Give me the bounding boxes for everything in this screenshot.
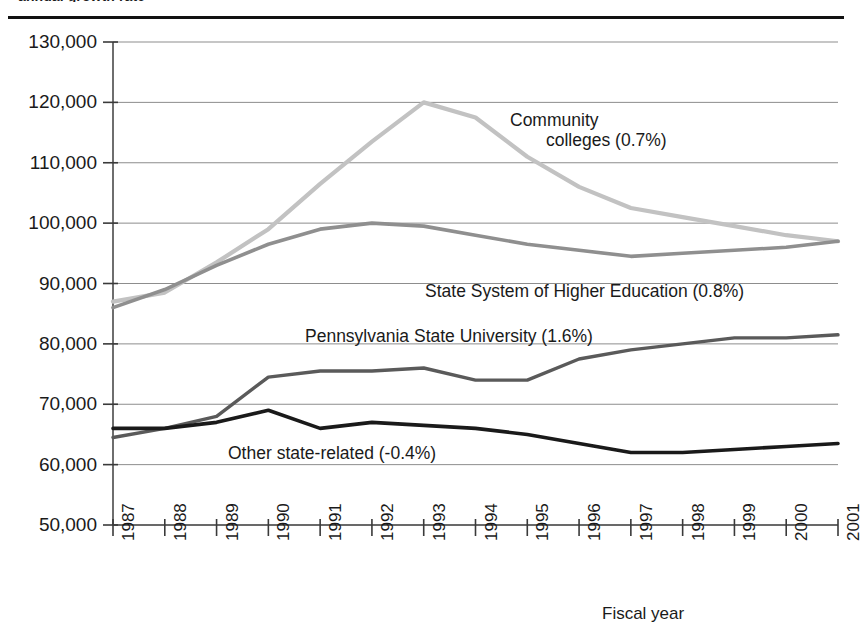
x-tick-label: 1990 (275, 503, 292, 541)
y-tick-label: 100,000 (28, 213, 97, 232)
y-tick-label: 110,000 (30, 153, 97, 172)
y-tick-label: 90,000 (39, 274, 97, 293)
x-tick-label: 1987 (120, 503, 137, 541)
series-label-state-system: State System of Higher Education (0.8%) (425, 281, 744, 301)
y-tick-label: 70,000 (39, 394, 97, 413)
series-lines-group (113, 102, 838, 452)
y-tick-label: 130,000 (28, 32, 97, 51)
y-tick-label: 120,000 (28, 92, 97, 111)
x-tick-label: 2001 (845, 503, 862, 541)
y-tick-marks-group (103, 42, 118, 525)
series-label-penn-state: Pennsylvania State University (1.6%) (305, 326, 593, 346)
x-tick-label: 1991 (327, 503, 344, 541)
x-tick-label: 2000 (793, 503, 810, 541)
y-tick-label: 60,000 (39, 455, 97, 474)
series-label-community-colleges-line2: colleges (0.7%) (510, 130, 667, 150)
y-tick-label: 50,000 (39, 515, 97, 534)
x-tick-label: 1988 (172, 503, 189, 541)
series-line-other-state-related (113, 410, 838, 452)
x-tick-label: 1997 (638, 503, 655, 541)
series-label-community-colleges-line1: Community (510, 110, 599, 130)
x-axis-title: Fiscal year (602, 604, 684, 624)
x-tick-label: 1993 (431, 503, 448, 541)
x-tick-label: 1996 (586, 503, 603, 541)
x-tick-label: 1995 (534, 503, 551, 541)
x-tick-label: 1992 (379, 503, 396, 541)
x-tick-label: 1999 (741, 503, 758, 541)
x-tick-label: 1989 (224, 503, 241, 541)
x-tick-label: 1994 (483, 503, 500, 541)
y-tick-label: 80,000 (39, 334, 97, 353)
x-tick-marks-group (113, 519, 838, 536)
series-label-community-colleges: Community colleges (0.7%) (510, 110, 667, 150)
series-line-community-colleges (113, 102, 838, 301)
series-label-other-state-related: Other state-related (-0.4%) (228, 443, 436, 463)
x-tick-label: 1998 (690, 503, 707, 541)
